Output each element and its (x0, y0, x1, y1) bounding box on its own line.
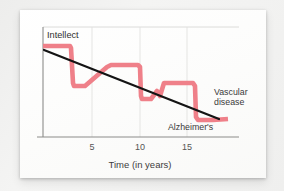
y-axis-label: Intellect (47, 30, 79, 40)
x-tick-label-10: 10 (135, 142, 145, 152)
series-line-vascular-disease (43, 46, 228, 120)
x-tick-label-15: 15 (182, 142, 192, 152)
series-label-vascular-disease-line1: Vascular (214, 87, 248, 97)
chart-svg: Intellect 5 10 15 Time (in years) Vascul… (0, 0, 284, 191)
series-label-vascular-disease-line2: disease (214, 97, 244, 107)
series-label-alzheimers: Alzheimer's (168, 122, 214, 132)
x-axis-title: Time (in years) (109, 159, 172, 170)
x-tick-label-5: 5 (89, 142, 94, 152)
line-chart: Intellect 5 10 15 Time (in years) Vascul… (0, 0, 284, 191)
figure-page: Intellect 5 10 15 Time (in years) Vascul… (0, 0, 284, 191)
